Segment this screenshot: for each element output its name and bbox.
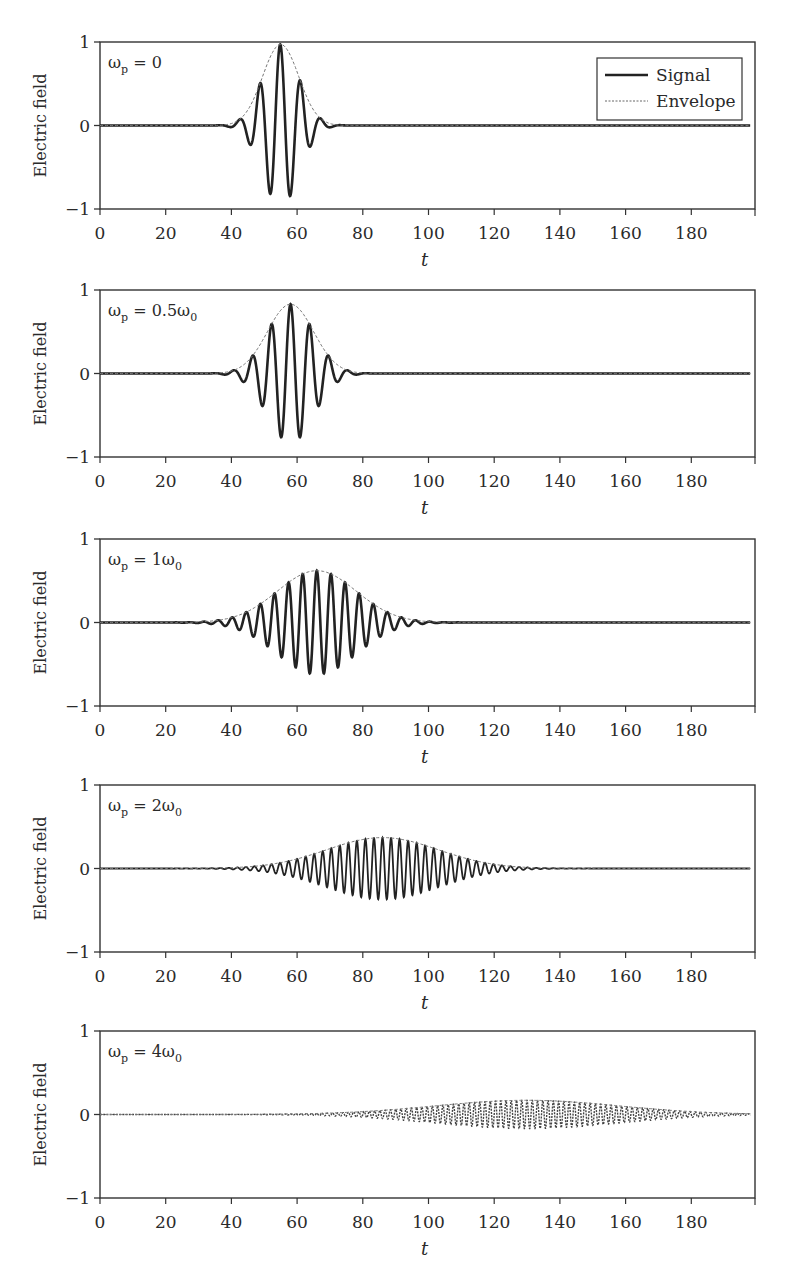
x-axis-label: t [421,497,429,518]
legend-envelope-label: Envelope [656,91,736,111]
y-tick-label: −1 [65,696,90,716]
x-tick-label: 140 [544,1212,576,1232]
x-tick-label: 120 [478,223,510,243]
envelope-line [100,571,750,623]
panel-parameter-label: ωp = 0 [108,53,162,76]
x-tick-label: 100 [412,471,444,491]
x-tick-label: 160 [609,223,641,243]
y-tick-label: 1 [79,529,90,549]
legend: SignalEnvelope [597,58,742,120]
y-axis-label: Electric field [31,571,50,675]
x-tick-label: 20 [155,223,177,243]
x-tick-label: 40 [221,720,243,740]
y-tick-label: 1 [79,280,90,300]
x-tick-label: 120 [478,471,510,491]
x-tick-label: 60 [286,720,308,740]
x-tick-label: 0 [95,471,106,491]
panel-parameter-label: ωp = 4ω0 [108,1042,182,1065]
x-tick-label: 40 [221,223,243,243]
y-tick-label: −1 [65,447,90,467]
y-tick-label: 0 [79,116,90,136]
x-tick-label: 60 [286,1212,308,1232]
figure: 10−1020406080100120140160180tElectric fi… [0,0,785,1278]
x-tick-label: 20 [155,966,177,986]
x-tick-label: 140 [544,223,576,243]
x-tick-label: 180 [675,223,707,243]
x-tick-label: 80 [352,223,374,243]
y-axis-label: Electric field [31,1063,50,1167]
x-tick-label: 40 [221,966,243,986]
panel-4: 10−1020406080100120140160180tElectric fi… [31,775,755,1013]
y-axis-label: Electric field [31,817,50,921]
x-tick-label: 140 [544,471,576,491]
x-axis-label: t [421,746,429,767]
x-tick-label: 140 [544,720,576,740]
x-tick-label: 100 [412,966,444,986]
x-tick-label: 160 [609,966,641,986]
x-tick-label: 120 [478,1212,510,1232]
y-axis-label: Electric field [31,322,50,426]
x-tick-label: 0 [95,720,106,740]
x-tick-label: 80 [352,471,374,491]
x-tick-label: 120 [478,966,510,986]
envelope-line [100,304,750,373]
y-tick-label: −1 [65,199,90,219]
y-tick-label: −1 [65,1188,90,1208]
y-tick-label: 0 [79,613,90,633]
x-axis-label: t [421,1238,429,1259]
legend-signal-label: Signal [656,65,711,85]
x-axis-label: t [421,249,429,270]
panel-3: 10−1020406080100120140160180tElectric fi… [31,529,755,767]
x-tick-label: 0 [95,223,106,243]
envelope-line [100,838,750,869]
x-tick-label: 60 [286,966,308,986]
y-tick-label: −1 [65,942,90,962]
x-tick-label: 40 [221,1212,243,1232]
x-tick-label: 100 [412,1212,444,1232]
x-tick-label: 60 [286,471,308,491]
x-tick-label: 20 [155,720,177,740]
y-axis-label: Electric field [31,74,50,178]
y-tick-label: 1 [79,1021,90,1041]
x-tick-label: 140 [544,966,576,986]
y-tick-label: 1 [79,32,90,52]
envelope-line [100,1100,750,1114]
x-tick-label: 40 [221,471,243,491]
x-tick-label: 80 [352,966,374,986]
x-tick-label: 0 [95,1212,106,1232]
x-tick-label: 160 [609,471,641,491]
panel-parameter-label: ωp = 2ω0 [108,796,182,819]
x-tick-label: 180 [675,966,707,986]
x-tick-label: 160 [609,720,641,740]
x-tick-label: 100 [412,720,444,740]
x-tick-label: 160 [609,1212,641,1232]
x-tick-label: 180 [675,471,707,491]
x-tick-label: 0 [95,966,106,986]
x-tick-label: 60 [286,223,308,243]
y-tick-label: 0 [79,1105,90,1125]
y-tick-label: 1 [79,775,90,795]
panel-1: 10−1020406080100120140160180tElectric fi… [31,32,755,270]
x-tick-label: 20 [155,1212,177,1232]
x-tick-label: 80 [352,1212,374,1232]
panel-parameter-label: ωp = 0.5ω0 [108,301,197,324]
x-tick-label: 100 [412,223,444,243]
x-tick-label: 180 [675,720,707,740]
panel-5: 10−1020406080100120140160180tElectric fi… [31,1021,755,1259]
y-tick-label: 0 [79,364,90,384]
x-tick-label: 180 [675,1212,707,1232]
y-tick-label: 0 [79,859,90,879]
panel-2: 10−1020406080100120140160180tElectric fi… [31,280,755,518]
x-tick-label: 80 [352,720,374,740]
signal-line [100,304,750,437]
x-axis-label: t [421,992,429,1013]
x-tick-label: 120 [478,720,510,740]
x-tick-label: 20 [155,471,177,491]
panel-parameter-label: ωp = 1ω0 [108,550,182,573]
